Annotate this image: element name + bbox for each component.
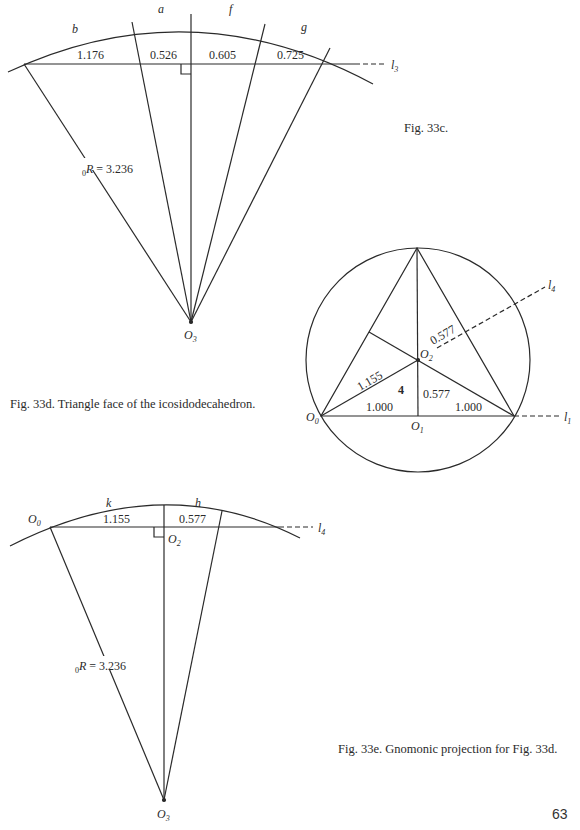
value-left-base: 1.000 xyxy=(366,400,393,414)
caption-fig-33d: Fig. 33d. Triangle face of the icosidode… xyxy=(10,397,255,412)
caption-fig-33c: Fig. 33c. xyxy=(404,121,448,136)
fig-33c-diagram: b a f g 1.176 0.526 0.605 0.725 l3 0R = … xyxy=(8,2,398,344)
radius-label: 0R = 3.236 xyxy=(82,162,133,178)
arc-label-b: b xyxy=(72,22,78,36)
arc-label-a: a xyxy=(158,2,164,16)
line-label-l3: l3 xyxy=(391,58,398,74)
value-inradius-vertical: 0.577 xyxy=(423,387,450,401)
segment-value-f: 0.605 xyxy=(209,48,236,62)
center-point-o3 xyxy=(163,799,166,802)
ray-right xyxy=(191,48,330,322)
page-number: 63 xyxy=(552,806,568,822)
arc-label-g: g xyxy=(301,20,307,34)
radius-label: 0R = 3.236 xyxy=(75,659,126,675)
line-label-l4: l4 xyxy=(318,521,325,537)
segment-value-a: 0.526 xyxy=(150,48,177,62)
value-inradius-oblique: 0.577 xyxy=(428,322,458,348)
line-label-l4: l4 xyxy=(548,278,555,294)
point-label-o2: O2 xyxy=(420,347,433,363)
altitude-vertical xyxy=(417,248,418,416)
arc-label-h: h xyxy=(195,496,201,510)
fig-33d-diagram: 0.577 1.155 4 0.577 1.000 1.000 O2 O0 O1… xyxy=(306,248,571,472)
point-label-o2: O2 xyxy=(168,532,181,548)
arc-label-k: k xyxy=(106,496,112,510)
ray-f-g xyxy=(191,24,265,322)
figure-canvas: b a f g 1.176 0.526 0.605 0.725 l3 0R = … xyxy=(0,0,580,830)
point-label-o0: O0 xyxy=(28,512,41,528)
great-circle-arc xyxy=(10,505,300,546)
right-angle-marker xyxy=(154,527,164,537)
caption-fig-33e: Fig. 33e. Gnomonic projection for Fig. 3… xyxy=(338,742,557,757)
value-right-base: 1.000 xyxy=(455,400,482,414)
point-label-o1: O1 xyxy=(411,419,424,435)
segment-value-b: 1.176 xyxy=(77,48,104,62)
center-label-o3: O3 xyxy=(157,807,170,823)
segment-value-h: 0.577 xyxy=(179,512,206,526)
point-label-o0: O0 xyxy=(306,410,319,426)
face-number: 4 xyxy=(398,383,404,397)
fig-33e-diagram: k h 1.155 0.577 O0 O2 l4 0R = 3.236 O3 xyxy=(10,496,325,823)
arc-label-f: f xyxy=(229,2,234,16)
value-circumradius: 1.155 xyxy=(355,368,385,394)
line-label-l1: l1 xyxy=(564,410,571,426)
line-l4 xyxy=(437,287,545,348)
segment-value-g: 0.725 xyxy=(277,48,304,62)
right-angle-marker xyxy=(181,64,191,74)
center-point-o3 xyxy=(190,321,193,324)
ray-h xyxy=(164,511,222,800)
segment-value-k: 1.155 xyxy=(103,512,130,526)
center-label-o3: O3 xyxy=(184,328,197,344)
